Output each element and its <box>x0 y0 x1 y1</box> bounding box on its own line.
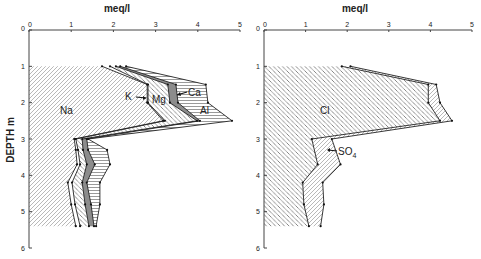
y-tick-label: 6 <box>21 245 25 252</box>
data-point <box>71 182 73 184</box>
data-point <box>86 163 88 165</box>
y-tick-label: 5 <box>21 208 25 215</box>
data-point <box>199 120 201 122</box>
label-na: Na <box>60 105 73 116</box>
data-point <box>95 225 97 227</box>
data-point <box>99 203 101 205</box>
data-point <box>109 65 111 67</box>
data-point <box>88 225 90 227</box>
left-x-axis-title: meq/l <box>104 3 130 14</box>
data-point <box>167 83 169 85</box>
y-tick-label: 2 <box>256 99 260 106</box>
data-point <box>147 102 149 104</box>
data-point <box>427 83 429 85</box>
data-point <box>125 65 127 67</box>
anion-panel: 0123450123456 meq/l Cl SO4 <box>256 3 474 252</box>
data-point <box>231 120 233 122</box>
data-point <box>93 225 95 227</box>
data-point <box>84 203 86 205</box>
x-tick-label: 2 <box>111 21 115 28</box>
y-tick-label: 1 <box>21 63 25 70</box>
data-point <box>86 182 88 184</box>
x-tick-label: 4 <box>196 21 200 28</box>
data-point <box>439 120 441 122</box>
data-point <box>207 102 209 104</box>
x-tick-label: 4 <box>428 21 432 28</box>
data-point <box>205 83 207 85</box>
data-point <box>317 163 319 165</box>
data-point <box>79 225 81 227</box>
data-point <box>322 182 324 184</box>
y-tick-label: 3 <box>21 136 25 143</box>
data-point <box>87 149 89 151</box>
data-point <box>451 120 453 122</box>
x-tick-label: 2 <box>345 21 349 28</box>
cation-panel: 0123450123456 meq/l DEPTH m Na K Mg Ca A… <box>5 3 242 252</box>
x-tick-label: 3 <box>154 21 158 28</box>
data-point <box>302 182 304 184</box>
data-point <box>82 149 84 151</box>
label-mg: Mg <box>152 94 166 105</box>
data-point <box>308 225 310 227</box>
data-point <box>169 102 171 104</box>
data-point <box>303 203 305 205</box>
data-point <box>119 65 121 67</box>
data-point <box>439 102 441 104</box>
data-point <box>77 149 79 151</box>
data-point <box>87 138 89 140</box>
y-tick-label: 4 <box>256 172 260 179</box>
x-tick-label: 3 <box>387 21 391 28</box>
data-point <box>320 225 322 227</box>
data-point <box>175 83 177 85</box>
y-tick-label: 1 <box>256 63 260 70</box>
data-point <box>435 83 437 85</box>
data-point <box>76 163 78 165</box>
data-point <box>177 102 179 104</box>
data-point <box>74 203 76 205</box>
data-point <box>81 182 83 184</box>
data-point <box>99 182 101 184</box>
x-tick-label: 0 <box>263 21 267 28</box>
data-point <box>115 65 117 67</box>
label-k: K <box>125 91 132 102</box>
right-x-axis-title: meq/l <box>342 3 368 14</box>
data-point <box>349 65 351 67</box>
x-tick-label: 0 <box>28 21 32 28</box>
y-tick-label: 0 <box>21 25 25 32</box>
y-tick-label: 3 <box>256 136 260 143</box>
data-point <box>109 163 111 165</box>
data-point <box>164 120 166 122</box>
data-point <box>75 225 77 227</box>
y-tick-label: 6 <box>256 245 260 252</box>
y-tick-label: 5 <box>256 208 260 215</box>
y-tick-label: 4 <box>21 172 25 179</box>
x-tick-label: 1 <box>69 21 73 28</box>
data-point <box>90 203 92 205</box>
data-point <box>75 138 77 140</box>
data-point <box>75 149 77 151</box>
y-axis-title: DEPTH m <box>5 117 16 163</box>
data-point <box>106 149 108 151</box>
data-point <box>323 203 325 205</box>
x-tick-label: 1 <box>304 21 308 28</box>
data-point <box>81 138 83 140</box>
label-so4: SO4 <box>338 146 356 159</box>
anion-areas <box>264 66 452 226</box>
data-point <box>311 138 313 140</box>
data-point <box>331 138 333 140</box>
x-tick-label: 5 <box>470 21 474 28</box>
data-point <box>94 163 96 165</box>
data-point <box>70 203 72 205</box>
label-al: Al <box>200 105 209 116</box>
depth-profile-figure: 0123450123456 meq/l DEPTH m Na K Mg Ca A… <box>0 0 481 259</box>
y-tick-label: 0 <box>256 25 260 32</box>
data-point <box>341 65 343 67</box>
x-tick-label: 5 <box>238 21 242 28</box>
data-point <box>147 83 149 85</box>
label-cl: Cl <box>320 105 329 116</box>
data-point <box>339 163 341 165</box>
data-point <box>427 102 429 104</box>
data-point <box>79 163 81 165</box>
y-tick-label: 2 <box>21 99 25 106</box>
data-point <box>101 65 103 67</box>
